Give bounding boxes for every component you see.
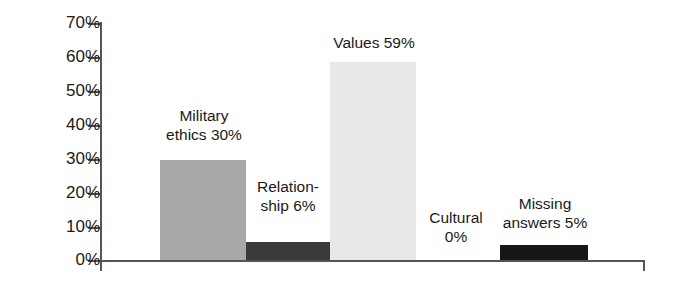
bar-chart: 70% 60% 50% 40% 30% 20% 10% 0% Military … — [0, 0, 683, 285]
bar-values[interactable] — [330, 62, 416, 262]
plot-area: Military ethics 30% Relation- ship 6% Va… — [0, 0, 683, 285]
x-axis-start-tick — [100, 260, 102, 271]
bar-label-values: Values 59% — [318, 33, 430, 52]
bar-military-ethics[interactable] — [160, 160, 246, 262]
x-axis-line — [100, 260, 645, 262]
bar-label-missing-answers: Missing answers 5% — [490, 194, 600, 232]
bar-label-relationship: Relation- ship 6% — [240, 177, 336, 215]
bar-relationship[interactable] — [246, 242, 330, 262]
x-axis-end-tick — [643, 260, 645, 271]
bar-label-military-ethics: Military ethics 30% — [148, 106, 260, 144]
